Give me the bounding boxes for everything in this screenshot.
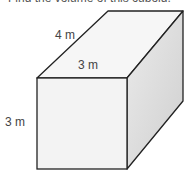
cuboid-diagram: 4 m 3 m 3 m	[0, 0, 191, 175]
width-label: 3 m	[78, 58, 98, 72]
front-face	[37, 78, 127, 169]
height-label: 3 m	[5, 115, 25, 129]
depth-label: 4 m	[55, 28, 75, 42]
